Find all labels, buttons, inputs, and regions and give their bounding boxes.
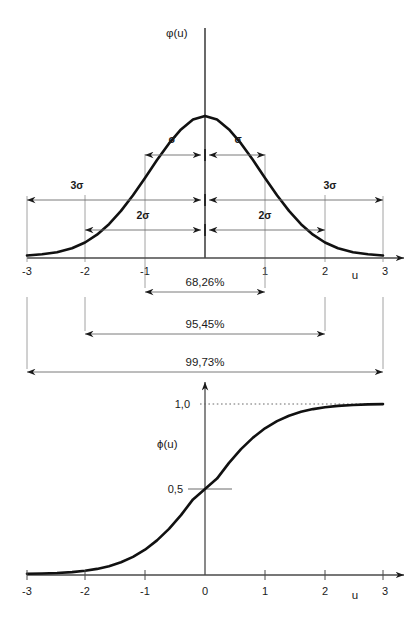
interval-95-label: 95,45% [185,318,224,330]
figure-background [0,0,416,622]
cdf-xtick-minus2: -2 [80,585,90,597]
interval-99-label: 99,73% [185,356,224,368]
one-sigma-right-label: σ [234,133,241,145]
figure-canvas: φ(u) σ σ 3σ 3σ 2σ [0,0,416,622]
cdf-x-axis-label: u [352,589,358,601]
three-sigma-left-label: 3σ [70,179,83,191]
pdf-xtick-plus2: 2 [322,265,328,277]
one-sigma-left-label: σ [168,133,175,145]
pdf-y-axis-label: φ(u) [166,27,188,39]
two-sigma-right-label: 2σ [258,209,271,221]
pdf-xtick-minus2: -2 [80,265,90,277]
cdf-ytick-half: 0,5 [168,483,183,495]
cdf-ytick-one: 1,0 [175,398,190,410]
three-sigma-right-label: 3σ [323,179,336,191]
cdf-y-axis-label: ϕ(u) [157,438,178,450]
pdf-xtick-minus3: -3 [22,265,32,277]
interval-68-label: 68,26% [185,276,224,288]
pdf-xtick-plus3: 3 [382,265,388,277]
cdf-xtick-zero: 0 [202,585,208,597]
cdf-xtick-minus3: -3 [22,585,32,597]
pdf-x-axis-label: u [352,269,358,281]
normal-distribution-figure: φ(u) σ σ 3σ 3σ 2σ [0,0,416,622]
cdf-xtick-plus2: 2 [322,585,328,597]
cdf-xtick-minus1: -1 [140,585,150,597]
two-sigma-left-label: 2σ [136,209,149,221]
cdf-xtick-plus3: 3 [382,585,388,597]
cdf-xtick-plus1: 1 [262,585,268,597]
